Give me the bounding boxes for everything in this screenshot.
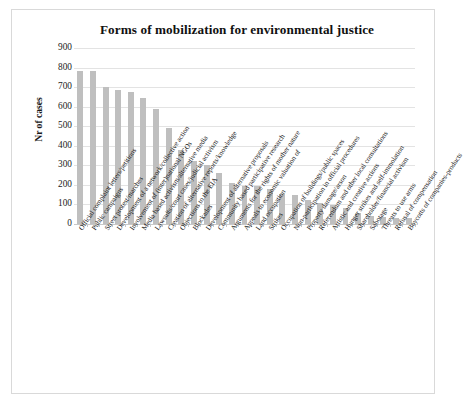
chart-title: Forms of mobilization for environmental … [52,22,422,38]
y-axis-tick-label: 300 [38,160,72,169]
y-axis-tick-label: 500 [38,121,72,130]
bar[interactable] [77,71,83,225]
chart-frame: Forms of mobilization for environmental … [11,9,435,394]
y-axis-tick-label: 600 [38,102,72,111]
x-axis-category-label: Boycotts of companies-products [407,152,464,232]
x-axis-category-labels: Official complaint letters/petitionsPubl… [12,226,458,405]
y-axis-tick-labels: 9008007006005004003002001000 [34,48,72,224]
y-axis-tick-label: 700 [38,82,72,91]
y-axis-tick-label: 100 [38,199,72,208]
y-axis-tick-label: 200 [38,180,72,189]
y-axis-tick-label: 400 [38,141,72,150]
y-axis-tick-label: 800 [38,63,72,72]
y-axis-tick-label: 900 [38,43,72,52]
